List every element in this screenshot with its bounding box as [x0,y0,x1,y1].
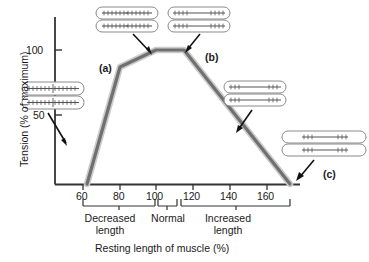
arrow-to-decreased-length [48,113,67,146]
x-tick-label-140: 140 [220,191,237,202]
y-tick-label-50: 50 [33,110,44,121]
x-tick-label-60: 60 [76,191,87,202]
point-label-c: (c) [323,169,336,180]
group-label-normal: Normal [146,213,190,225]
sarcomere-optimal-right-icon [168,7,230,32]
y-axis-title: Tension (% of maximum) [19,39,30,179]
group-label-increased-line2: length [196,225,260,237]
group-label-decreased-line1: Decreased [78,213,142,225]
arrow-to-point-c [296,160,314,181]
group-label-decreased-length: Decreased length [78,213,142,236]
point-label-b: (b) [205,52,218,63]
arrow-to-plateau-right [185,34,200,53]
group-label-increased-line1: Increased [196,213,260,225]
group-label-decreased-line2: length [78,225,142,237]
sarcomere-decreased-length-icon [22,82,84,109]
sarcomere-increased-length-icon [224,81,286,106]
x-tick-label-100: 100 [146,191,163,202]
group-label-increased-length: Increased length [196,213,260,236]
x-tick-label-80: 80 [113,191,124,202]
curve-halo [87,50,290,184]
x-axis-title: Resting length of muscle (%) [95,243,229,254]
arrow-to-plateau-left [133,34,152,55]
length-tension-curve [87,50,290,184]
x-tick-label-120: 120 [183,191,200,202]
sarcomere-optimal-left-icon [96,7,158,32]
point-label-a: (a) [99,63,112,74]
x-tick-label-160: 160 [257,191,274,202]
length-tension-curve-figure: 100 50 60 80 100 120 140 160 Tension (% … [0,0,369,262]
sarcomere-overstretched-icon [282,131,366,156]
